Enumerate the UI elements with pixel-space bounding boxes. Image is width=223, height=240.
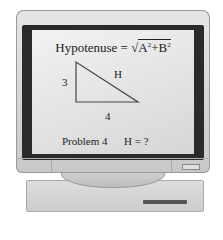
- hypotenuse-label: H: [114, 68, 122, 80]
- answer-label: H = ?: [124, 135, 149, 147]
- radicand: A2+B2: [138, 39, 170, 55]
- power-button: [182, 164, 200, 170]
- term-a: A: [138, 40, 147, 55]
- formula-equals: =: [121, 40, 128, 55]
- exponent-b: 2: [167, 41, 171, 49]
- right-triangle-icon: [74, 60, 144, 104]
- plus-sign: +: [151, 40, 158, 55]
- term-b: B: [159, 40, 168, 55]
- bezel-seam-left: [51, 160, 52, 172]
- monitor-screen: Hypotenuse = √A2+B2 3 H 4 Problem 4 H = …: [32, 30, 194, 154]
- problem-label: Problem 4: [62, 135, 108, 147]
- bezel-seam-right: [171, 160, 172, 172]
- side-vertical-label: 3: [62, 76, 68, 88]
- side-horizontal-label: 4: [105, 110, 111, 122]
- floppy-drive-slot: [143, 200, 187, 204]
- bottom-bezel: [16, 158, 210, 174]
- formula-label: Hypotenuse: [55, 40, 117, 55]
- pythagorean-formula: Hypotenuse = √A2+B2: [32, 40, 194, 56]
